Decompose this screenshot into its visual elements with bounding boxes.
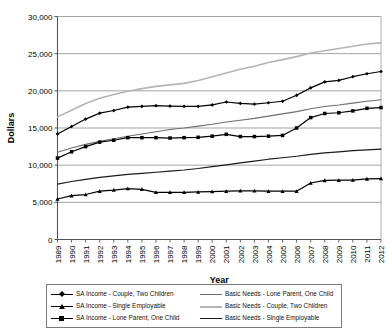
data-point-diamond bbox=[182, 105, 186, 109]
x-tick-label: 2002 bbox=[237, 245, 246, 263]
chart-container: 05,00010,00015,00020,00025,00030,000 198… bbox=[0, 0, 389, 335]
data-point-square bbox=[379, 106, 383, 110]
legend-entry[interactable]: Basic Needs - Single Employable bbox=[200, 312, 337, 324]
x-tick-label: 2005 bbox=[279, 245, 288, 263]
data-point-diamond bbox=[196, 105, 200, 109]
x-tick-label: 2008 bbox=[321, 245, 330, 263]
legend-swatch bbox=[51, 289, 73, 300]
y-tick-label: 5,000 bbox=[32, 198, 53, 207]
data-point-square bbox=[239, 135, 243, 139]
legend-label: Basic Needs - Single Employable bbox=[225, 314, 320, 322]
x-tick-label: 1992 bbox=[96, 245, 105, 263]
data-point-square bbox=[98, 140, 102, 144]
y-tick-label: 0 bbox=[48, 236, 53, 245]
series-line bbox=[58, 100, 382, 152]
legend-column-right: Basic Needs - Lone Parent, One ChildBasi… bbox=[200, 288, 337, 324]
x-tick-label: 1989 bbox=[54, 245, 63, 263]
x-tick-label: 2007 bbox=[307, 245, 316, 263]
legend-entry[interactable]: SA Income - Couple, Two Children bbox=[51, 288, 200, 300]
y-tick-label: 10,000 bbox=[28, 161, 53, 170]
x-tick-label: 1999 bbox=[194, 245, 203, 263]
x-tick-label: 2012 bbox=[377, 245, 386, 263]
legend-square-icon bbox=[59, 316, 64, 321]
data-point-square bbox=[253, 135, 256, 139]
data-point-square bbox=[154, 136, 158, 140]
legend-entry[interactable]: Basic Needs - Lone Parent, One Child bbox=[200, 288, 337, 300]
legend-entry[interactable]: Basic Needs - Couple, Two Children bbox=[200, 300, 337, 312]
y-tick-label: 25,000 bbox=[28, 50, 53, 59]
legend-diamond-icon bbox=[59, 291, 65, 294]
x-tick-label: 2001 bbox=[222, 245, 231, 263]
data-point-diamond bbox=[168, 104, 172, 108]
legend-label: SA Income - Couple, Two Children bbox=[76, 290, 174, 298]
legend-swatch bbox=[200, 289, 222, 300]
data-point-square bbox=[309, 116, 313, 120]
data-point-square bbox=[84, 145, 88, 149]
data-point-square bbox=[323, 112, 327, 116]
data-point-square bbox=[295, 126, 299, 130]
line-chart-plot: 05,00010,00015,00020,00025,00030,000 198… bbox=[0, 0, 389, 289]
data-point-diamond bbox=[365, 72, 369, 76]
x-tick-label: 2009 bbox=[335, 245, 344, 263]
data-point-diamond bbox=[112, 109, 116, 113]
data-point-diamond bbox=[210, 103, 214, 107]
data-point-square bbox=[182, 136, 186, 140]
x-tick-label: 2004 bbox=[265, 245, 274, 263]
data-point-square bbox=[196, 136, 200, 140]
legend-swatch bbox=[200, 301, 222, 312]
data-point-diamond bbox=[238, 102, 242, 106]
legend-line-icon bbox=[200, 294, 222, 295]
series-line bbox=[58, 149, 382, 184]
x-tick-label: 1995 bbox=[138, 245, 147, 263]
data-point-diamond bbox=[351, 75, 355, 79]
data-point-diamond bbox=[281, 99, 285, 103]
legend-column-left: SA Income - Couple, Two ChildrenSA Incom… bbox=[51, 288, 200, 324]
data-point-diamond bbox=[126, 105, 130, 109]
series-line bbox=[58, 108, 382, 159]
legend-swatch bbox=[51, 301, 73, 312]
x-tick-label: 1993 bbox=[110, 245, 119, 263]
chart-legend: SA Income - Couple, Two ChildrenSA Incom… bbox=[46, 284, 342, 328]
data-point-square bbox=[112, 139, 116, 143]
legend-label: Basic Needs - Lone Parent, One Child bbox=[225, 290, 333, 298]
legend-diamond-icon-lower bbox=[59, 294, 65, 297]
data-point-square bbox=[70, 150, 74, 154]
data-point-diamond bbox=[98, 111, 102, 115]
x-tick-label: 1998 bbox=[180, 245, 189, 263]
y-axis-tick-labels: 05,00010,00015,00020,00025,00030,000 bbox=[28, 13, 57, 245]
y-tick-label: 15,000 bbox=[28, 124, 53, 133]
x-tick-label: 1994 bbox=[124, 245, 133, 263]
data-point-diamond bbox=[224, 100, 228, 104]
data-point-diamond bbox=[253, 102, 257, 106]
data-point-diamond bbox=[323, 80, 327, 84]
legend-swatch bbox=[51, 313, 73, 324]
x-tick-label: 2006 bbox=[293, 245, 302, 263]
legend-label: SA Income - Lone Parent, One Child bbox=[76, 314, 179, 322]
data-point-diamond bbox=[154, 104, 158, 108]
x-tick-label: 2011 bbox=[363, 245, 372, 263]
legend-label: SA Income - Single Employable bbox=[76, 302, 166, 310]
data-point-diamond bbox=[267, 101, 271, 105]
legend-entry[interactable]: SA Income - Lone Parent, One Child bbox=[51, 312, 200, 324]
x-axis-tick-labels: 1989199019911992199319941995199619971998… bbox=[54, 240, 387, 264]
data-point-square bbox=[281, 134, 285, 138]
series-line bbox=[58, 179, 382, 199]
data-point-square bbox=[126, 136, 129, 140]
legend-entry[interactable]: SA Income - Single Employable bbox=[51, 300, 200, 312]
data-point-diamond bbox=[379, 70, 383, 74]
data-point-square bbox=[365, 107, 369, 111]
x-tick-label: 2010 bbox=[349, 245, 358, 263]
data-point-square bbox=[337, 111, 341, 115]
legend-label: Basic Needs - Couple, Two Children bbox=[225, 302, 328, 310]
y-axis-title: Dollars bbox=[6, 113, 16, 144]
legend-line-icon bbox=[200, 318, 222, 319]
data-point-square bbox=[351, 109, 355, 113]
data-point-square bbox=[140, 136, 144, 140]
legend-triangle-icon bbox=[59, 304, 65, 309]
legend-line-icon bbox=[200, 306, 222, 308]
data-point-square bbox=[56, 156, 60, 160]
data-point-square bbox=[225, 133, 229, 137]
x-tick-label: 1990 bbox=[68, 245, 77, 263]
series-line bbox=[58, 72, 382, 134]
data-point-square bbox=[168, 136, 172, 140]
